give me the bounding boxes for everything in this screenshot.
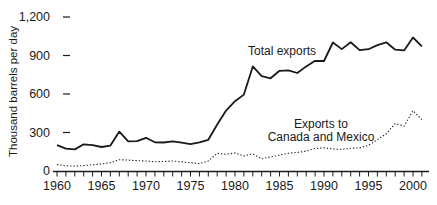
canada-mexico-label: Exports to <box>294 117 348 131</box>
total-exports-label: Total exports <box>248 44 316 58</box>
x-tick-label: 1965 <box>88 179 116 193</box>
x-tick-label: 1960 <box>43 179 71 193</box>
x-tick-label: 1980 <box>221 179 249 193</box>
y-tick-label: 0 <box>43 164 50 178</box>
x-tick-label: 2000 <box>399 179 427 193</box>
x-tick-label: 1990 <box>310 179 338 193</box>
y-tick-label: 600 <box>29 87 50 101</box>
x-tick-label: 1985 <box>266 179 294 193</box>
y-tick-label: 300 <box>29 126 50 140</box>
x-tick-label: 1975 <box>177 179 205 193</box>
x-tick-label: 1970 <box>132 179 160 193</box>
x-tick-label: 1995 <box>355 179 383 193</box>
y-tick-label: 900 <box>29 49 50 63</box>
canada-mexico-label: Canada and Mexico <box>268 130 375 144</box>
petroleum-exports-chart: Thousand barrels per day 196019651970197… <box>0 0 437 205</box>
chart-canvas: 1960196519701975198019851990199520000300… <box>0 0 437 205</box>
y-tick-label: 1,200 <box>19 10 50 24</box>
y-axis-title: Thousand barrels per day <box>7 27 23 157</box>
